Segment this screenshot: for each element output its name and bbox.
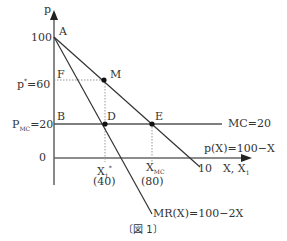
label-b: B [57,111,65,123]
y-tick-pmc: PMC=20 [12,119,53,135]
demand-line [54,37,200,167]
x-tick-x1-star-value: (40) [93,176,116,188]
x-axis-label: X, X1 [223,163,250,179]
y-axis-label: p [44,4,51,16]
mr-label: MR(X)=100−2X [153,208,243,220]
y-tick-100: 100 [31,32,52,44]
point-m [101,77,106,82]
label-e: E [155,111,163,123]
y-tick-p-star: p*=60 [17,75,50,91]
x-tick-xmc-value: (80) [141,176,164,188]
mc-label: MC=20 [228,118,271,130]
label-a: A [59,26,67,38]
figure-caption: 〔図 1〕 [123,224,163,236]
x-axis-arrow-icon [241,154,252,162]
point-e [149,121,154,126]
label-d: D [107,111,116,123]
label-f: F [57,69,65,81]
x-tick-10: 10 [198,163,212,175]
y-tick-zero: 0 [39,152,46,164]
y-axis-arrow-icon [50,10,58,20]
demand-label: p(X)=100−X [204,143,275,155]
label-m: M [110,69,121,81]
